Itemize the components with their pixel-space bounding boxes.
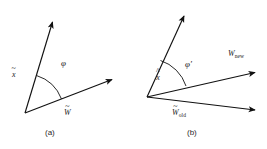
vector-w-old-b xyxy=(147,97,255,110)
label-w-tilde-a: ~ W xyxy=(64,109,71,117)
vector-x-hat-b xyxy=(147,16,184,97)
label-w-old-b-subscript: old xyxy=(179,112,186,118)
caption-panel-a: (a) xyxy=(45,129,55,137)
label-w-new-b: Wnew xyxy=(228,50,244,60)
label-x-tilde-a: ~ x xyxy=(12,71,16,79)
vector-x-tilde-a xyxy=(25,22,53,113)
angle-arc-phi-prime xyxy=(161,61,187,87)
tilde-accent-icon: ~ xyxy=(12,65,16,73)
label-x-hat-b: ^ x xyxy=(156,74,160,82)
tilde-accent-icon: ~ xyxy=(65,103,69,111)
caption-panel-b: (b) xyxy=(187,129,197,137)
panel-b-graphics xyxy=(147,16,255,110)
tilde-accent-icon: ~ xyxy=(173,103,177,111)
label-w-new-b-subscript: new xyxy=(235,53,244,59)
panel-a-graphics xyxy=(25,22,112,113)
angle-arc-phi xyxy=(37,76,62,100)
vector-w-new-b xyxy=(147,73,255,98)
diagram-canvas xyxy=(0,0,267,149)
label-w-old-b: ~Wold xyxy=(172,109,186,119)
label-angle-phi-prime-b: φ′ xyxy=(185,60,192,69)
label-w-new-b-base: W xyxy=(228,49,235,58)
label-w-old-b-basewrap: ~W xyxy=(172,109,179,117)
hat-accent-icon: ^ xyxy=(156,68,160,76)
label-angle-phi-a: φ xyxy=(61,59,66,68)
vector-angle-figure: ~ x φ ~ W (a) ^ x φ′ Wnew ~Wold (b) xyxy=(0,0,267,149)
